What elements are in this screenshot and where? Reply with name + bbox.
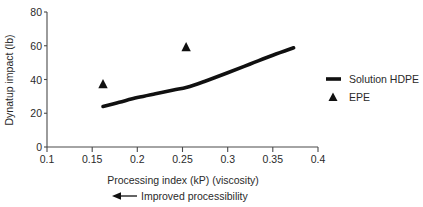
chart-figure: Dynatup impact (lb) 80 60 40 20 0 0.1 0.…	[0, 0, 423, 207]
x-tick-label-0.4: 0.4	[311, 153, 326, 165]
legend-label-solution-hdpe: Solution HDPE	[349, 73, 419, 85]
x-tick-label-0.35: 0.35	[263, 153, 284, 165]
x-tick-label-0.15: 0.15	[82, 153, 103, 165]
chart-legend: Solution HDPE EPE	[326, 73, 419, 103]
y-tick-label-40: 40	[30, 74, 42, 86]
marker-epe-point-1	[98, 79, 107, 88]
x-tick-label-0.1: 0.1	[40, 153, 55, 165]
y-tick-label-60: 60	[30, 40, 42, 52]
x-tick-label-0.2: 0.2	[130, 153, 145, 165]
legend-label-epe: EPE	[349, 91, 370, 103]
annotation-label: Improved processibility	[141, 190, 249, 202]
left-arrow-icon	[112, 192, 121, 200]
chart-canvas: Dynatup impact (lb) 80 60 40 20 0 0.1 0.…	[0, 0, 423, 207]
x-axis-label: Processing index (kP) (viscosity)	[107, 174, 259, 186]
legend-swatch-epe	[329, 93, 338, 102]
marker-epe-point-2	[181, 42, 190, 51]
x-tick-label-0.3: 0.3	[220, 153, 235, 165]
y-tick-label-0: 0	[36, 141, 42, 153]
y-axis-label: Dynatup impact (lb)	[3, 34, 15, 125]
y-tick-label-20: 20	[30, 107, 42, 119]
y-tick-label-80: 80	[30, 6, 42, 18]
series-line-solution-hdpe-curve	[103, 48, 294, 107]
x-tick-label-0.25: 0.25	[172, 153, 193, 165]
improved-processibility-annotation: Improved processibility	[112, 190, 249, 202]
